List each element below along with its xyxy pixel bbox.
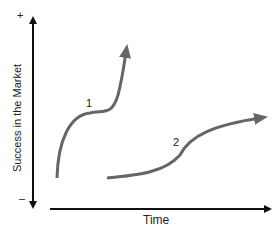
curve-2-label: 2 — [173, 136, 179, 148]
y-minus-marker: – — [19, 192, 25, 204]
x-axis-label: Time — [143, 213, 169, 227]
curve-1 — [57, 52, 126, 178]
curve-2 — [107, 118, 260, 178]
y-axis-label: Success in the Market — [11, 43, 23, 193]
diagram-canvas — [0, 0, 280, 237]
curve-1-label: 1 — [86, 97, 92, 109]
y-plus-marker: + — [17, 9, 23, 21]
